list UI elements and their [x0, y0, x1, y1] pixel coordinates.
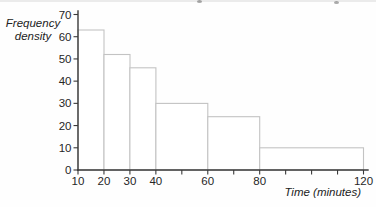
x-axis-title: Time (minutes)	[284, 186, 361, 199]
histogram-figure: Frequency density 0102030405060701020304…	[0, 0, 376, 207]
y-tick-label-10: 10	[59, 142, 72, 154]
histogram-bar-30-40	[130, 68, 156, 170]
histogram-bar-20-30	[104, 55, 130, 171]
x-tick-label-40: 40	[149, 175, 162, 187]
x-tick-label-10: 10	[72, 175, 85, 187]
x-tick-label-20: 20	[98, 175, 111, 187]
y-tick-label-20: 20	[59, 120, 72, 132]
histogram-bar-40-60	[156, 103, 208, 170]
y-tick-label-30: 30	[59, 97, 72, 109]
y-axis-title: Frequency density	[4, 17, 62, 42]
y-tick-label-0: 0	[65, 164, 71, 176]
x-tick-label-30: 30	[124, 175, 137, 187]
histogram-bar-80-120	[260, 148, 364, 170]
y-tick-label-50: 50	[59, 53, 72, 65]
x-tick-label-60: 60	[201, 175, 214, 187]
histogram-bar-60-80	[208, 117, 260, 170]
histogram-bar-10-20	[78, 30, 104, 170]
y-tick-label-40: 40	[59, 75, 72, 87]
x-tick-label-80: 80	[253, 175, 266, 187]
